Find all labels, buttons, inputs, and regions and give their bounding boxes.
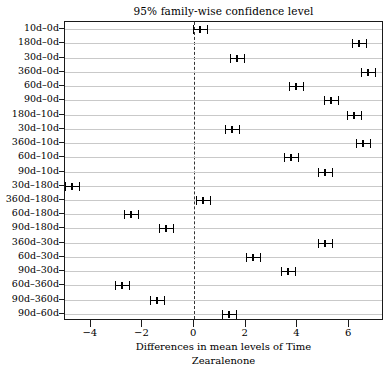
y-tick-label-90d-180d: 90d–180d <box>12 222 59 232</box>
y-tick-label-90d-0d: 90d–0d <box>24 94 59 104</box>
ci-cap-upper <box>361 111 362 120</box>
ci-cap-upper <box>207 25 208 34</box>
ci-cap-lower <box>196 196 197 205</box>
y-tick-label-60d-360d: 60d–360d <box>12 279 59 289</box>
ci-point-estimate <box>324 240 326 247</box>
ci-cap-lower <box>222 310 223 319</box>
ci-point-estimate <box>290 154 292 161</box>
y-tick-label-30d-10d: 30d–10d <box>18 123 59 133</box>
ci-cap-lower <box>318 239 319 248</box>
y-tick-label-360d-30d: 360d–30d <box>12 237 59 247</box>
ci-cap-upper <box>295 267 296 276</box>
ci-interval-90d-360d <box>65 296 382 305</box>
y-tick-label-90d-30d: 90d–30d <box>18 265 59 275</box>
y-tick-label-360d-180d: 360d–180d <box>6 194 59 204</box>
ci-interval-30d-180d <box>65 182 382 191</box>
ci-cap-upper <box>298 153 299 162</box>
x-axis-subtitle: Zearalenone <box>64 355 383 366</box>
x-tick-mark <box>296 320 297 327</box>
y-tick-label-60d-180d: 60d–180d <box>12 208 59 218</box>
x-tick-label-2: 2 <box>242 327 248 338</box>
ci-cap-lower <box>352 39 353 48</box>
ci-cap-upper <box>260 253 261 262</box>
ci-cap-upper <box>239 125 240 134</box>
ci-cap-lower <box>65 182 66 191</box>
ci-point-estimate <box>353 112 355 119</box>
ci-cap-lower <box>289 82 290 91</box>
ci-point-estimate <box>199 26 201 33</box>
ci-cap-lower <box>347 111 348 120</box>
ci-interval-90d-60d <box>65 310 382 319</box>
ci-cap-lower <box>124 210 125 219</box>
y-tick-label-90d-60d: 90d–60d <box>18 308 59 318</box>
tukey-hsd-plot: 95% family-wise confidence level 10d–0d1… <box>0 0 392 378</box>
ci-point-estimate <box>156 297 158 304</box>
ci-point-estimate <box>71 183 73 190</box>
ci-cap-lower <box>246 253 247 262</box>
ci-point-estimate <box>287 268 289 275</box>
ci-interval-60d-30d <box>65 253 382 262</box>
y-tick-label-30d-180d: 30d–180d <box>12 180 59 190</box>
ci-cap-upper <box>370 139 371 148</box>
ci-interval-90d-10d <box>65 168 382 177</box>
ci-interval-180d-0d <box>65 39 382 48</box>
ci-interval-360d-180d <box>65 196 382 205</box>
ci-cap-lower <box>115 281 116 290</box>
ci-point-estimate <box>330 97 332 104</box>
ci-cap-upper <box>303 82 304 91</box>
ci-cap-upper <box>338 96 339 105</box>
ci-point-estimate <box>295 83 297 90</box>
ci-interval-60d-180d <box>65 210 382 219</box>
ci-interval-30d-10d <box>65 125 382 134</box>
ci-interval-30d-0d <box>65 54 382 63</box>
x-tick-mark <box>90 320 91 327</box>
ci-cap-lower <box>193 25 194 34</box>
ci-interval-60d-360d <box>65 281 382 290</box>
y-tick-label-180d-10d: 180d–10d <box>12 109 59 119</box>
ci-interval-90d-30d <box>65 267 382 276</box>
ci-cap-lower <box>284 153 285 162</box>
ci-cap-upper <box>164 296 165 305</box>
ci-point-estimate <box>324 169 326 176</box>
ci-cap-upper <box>366 39 367 48</box>
y-tick-label-180d-0d: 180d–0d <box>18 37 59 47</box>
ci-interval-90d-0d <box>65 96 382 105</box>
ci-point-estimate <box>358 40 360 47</box>
ci-cap-upper <box>173 224 174 233</box>
ci-cap-upper <box>79 182 80 191</box>
ci-point-estimate <box>228 311 230 318</box>
ci-cap-lower <box>225 125 226 134</box>
plot-area <box>64 21 383 320</box>
x-tick-mark <box>141 320 142 327</box>
ci-cap-upper <box>332 239 333 248</box>
ci-interval-360d-0d <box>65 68 382 77</box>
y-tick-label-30d-0d: 30d–0d <box>24 52 59 62</box>
y-tick-label-360d-10d: 360d–10d <box>12 137 59 147</box>
ci-point-estimate <box>236 55 238 62</box>
y-tick-label-60d-30d: 60d–30d <box>18 251 59 261</box>
ci-point-estimate <box>367 69 369 76</box>
ci-cap-lower <box>356 139 357 148</box>
y-tick-label-90d-360d: 90d–360d <box>12 294 59 304</box>
ci-cap-lower <box>281 267 282 276</box>
ci-point-estimate <box>130 211 132 218</box>
ci-interval-180d-10d <box>65 111 382 120</box>
ci-point-estimate <box>121 282 123 289</box>
ci-interval-360d-10d <box>65 139 382 148</box>
ci-point-estimate <box>231 126 233 133</box>
ci-cap-upper <box>138 210 139 219</box>
ci-cap-upper <box>332 168 333 177</box>
ci-interval-60d-0d <box>65 82 382 91</box>
ci-cap-lower <box>150 296 151 305</box>
x-tick-label--4: −4 <box>82 327 97 338</box>
ci-point-estimate <box>202 197 204 204</box>
page-title: 95% family-wise confidence level <box>64 5 383 17</box>
ci-point-estimate <box>165 225 167 232</box>
x-tick-label-4: 4 <box>293 327 299 338</box>
ci-interval-60d-10d <box>65 153 382 162</box>
ci-cap-upper <box>244 54 245 63</box>
x-tick-mark <box>245 320 246 327</box>
ci-cap-upper <box>129 281 130 290</box>
y-axis-labels: 10d–0d180d–0d30d–0d360d–0d60d–0d90d–0d18… <box>0 21 59 320</box>
ci-interval-90d-180d <box>65 224 382 233</box>
